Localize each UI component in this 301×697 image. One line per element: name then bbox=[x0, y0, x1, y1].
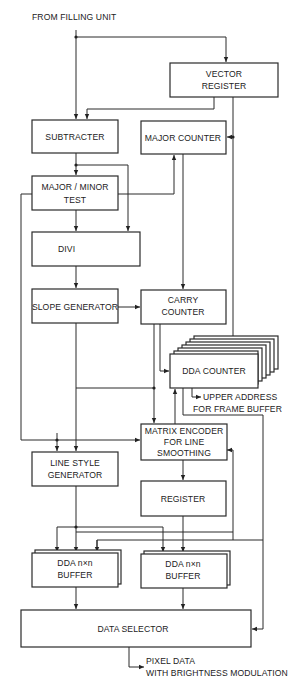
output-label-2: WITH BRIGHTNESS MODULATION bbox=[146, 668, 288, 678]
wire-carry-to-dda-counter bbox=[160, 324, 169, 371]
block-dda-buffer-right: DDA n×n BUFFER bbox=[141, 551, 230, 588]
svg-text:REGISTER: REGISTER bbox=[202, 81, 247, 91]
svg-text:DDA n×n: DDA n×n bbox=[57, 558, 92, 568]
wire-test-to-major-counter bbox=[118, 155, 174, 194]
wire-vector-register-to-subtracter bbox=[87, 97, 214, 119]
svg-text:BUFFER: BUFFER bbox=[166, 571, 201, 581]
wire-line-style-to-buffer-left-2 bbox=[57, 527, 76, 552]
wire-loop-horizontal bbox=[97, 540, 233, 550]
svg-text:MAJOR / MINOR: MAJOR / MINOR bbox=[41, 182, 108, 192]
output-label-1: PIXEL DATA bbox=[146, 656, 195, 666]
svg-text:COUNTER: COUNTER bbox=[161, 307, 204, 317]
svg-text:DIVI: DIVI bbox=[58, 244, 75, 254]
block-diagram: FROM FILLING UNIT bbox=[0, 0, 301, 697]
block-subtracter: SUBTRACTER bbox=[32, 120, 118, 153]
block-line-style-generator: LINE STYLE GENERATOR bbox=[32, 452, 118, 486]
svg-text:TEST: TEST bbox=[64, 195, 87, 205]
wire-loop-to-matrix-encoder bbox=[227, 450, 233, 540]
wire-selector-output bbox=[129, 647, 144, 667]
svg-text:DATA SELECTOR: DATA SELECTOR bbox=[97, 624, 168, 634]
block-register: REGISTER bbox=[141, 481, 226, 516]
svg-text:SMOOTHING: SMOOTHING bbox=[157, 448, 211, 458]
block-dda-counter: DDA COUNTER bbox=[182, 366, 246, 376]
svg-text:FOR LINE: FOR LINE bbox=[164, 437, 205, 447]
svg-text:SUBTRACTER: SUBTRACTER bbox=[45, 132, 104, 142]
block-slope-generator: SLOPE GENERATOR bbox=[32, 289, 118, 323]
svg-text:CARRY: CARRY bbox=[168, 295, 199, 305]
svg-text:REGISTER: REGISTER bbox=[161, 494, 206, 504]
block-major-minor-test: MAJOR / MINOR TEST bbox=[32, 176, 118, 210]
wire-input-to-vector-register bbox=[76, 37, 226, 62]
block-data-selector: DATA SELECTOR bbox=[21, 610, 251, 647]
svg-text:GENERATOR: GENERATOR bbox=[48, 470, 103, 480]
svg-text:BUFFER: BUFFER bbox=[58, 570, 93, 580]
svg-text:MATRIX ENCODER: MATRIX ENCODER bbox=[145, 426, 224, 436]
input-label: FROM FILLING UNIT bbox=[32, 12, 117, 22]
block-divi: DIVI bbox=[32, 232, 140, 266]
svg-text:VECTOR: VECTOR bbox=[206, 69, 242, 79]
svg-text:LINE STYLE: LINE STYLE bbox=[50, 458, 100, 468]
block-vector-register: VECTOR REGISTER bbox=[170, 63, 278, 97]
svg-text:SLOPE GENERATOR: SLOPE GENERATOR bbox=[32, 302, 118, 312]
wire-dda-counter-upper-address bbox=[192, 388, 201, 397]
block-matrix-encoder: MATRIX ENCODER FOR LINE SMOOTHING bbox=[141, 424, 227, 460]
svg-text:MAJOR COUNTER: MAJOR COUNTER bbox=[145, 133, 221, 143]
block-carry-counter: CARRY COUNTER bbox=[141, 290, 226, 324]
block-major-counter: MAJOR COUNTER bbox=[141, 121, 226, 154]
upper-address-label-2: FOR FRAME BUFFER bbox=[193, 404, 282, 414]
block-dda-buffer-left: DDA n×n BUFFER bbox=[32, 550, 121, 587]
svg-text:DDA n×n: DDA n×n bbox=[165, 559, 200, 569]
block-dda-counter-stack: DDA COUNTER bbox=[170, 336, 278, 388]
upper-address-label-1: UPPER ADDRESS bbox=[203, 392, 278, 402]
